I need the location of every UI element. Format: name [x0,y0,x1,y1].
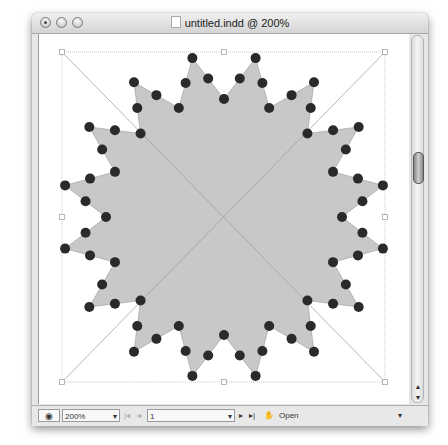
anchor-point[interactable] [264,321,274,331]
anchor-point[interactable] [132,103,142,113]
anchor-point[interactable] [219,330,229,340]
anchor-point[interactable] [251,371,261,381]
anchor-point[interactable] [354,122,364,132]
anchor-point[interactable] [60,180,70,190]
anchor-point[interactable] [136,295,146,305]
anchor-point[interactable] [187,53,197,63]
anchor-point[interactable] [110,299,120,309]
anchor-point[interactable] [264,103,274,113]
anchor-point[interactable] [84,302,94,312]
anchor-point[interactable] [151,90,161,100]
anchor-point[interactable] [306,103,316,113]
anchor-point[interactable] [257,346,267,356]
anchor-point[interactable] [353,174,363,184]
anchor-point[interactable] [306,321,316,331]
anchor-point[interactable] [328,167,338,177]
anchor-point[interactable] [151,334,161,344]
anchor-point[interactable] [84,122,94,132]
star-artwork[interactable] [0,0,448,445]
anchor-point[interactable] [341,144,351,154]
anchor-point[interactable] [287,90,297,100]
anchor-point[interactable] [60,244,70,254]
anchor-point[interactable] [136,129,146,139]
resize-handle[interactable] [383,50,388,55]
anchor-point[interactable] [378,244,388,254]
anchor-point[interactable] [181,78,191,88]
anchor-point[interactable] [235,350,245,360]
star-shape[interactable] [60,52,388,382]
anchor-point[interactable] [287,334,297,344]
resize-handle[interactable] [383,380,388,385]
resize-handle[interactable] [60,50,65,55]
anchor-point[interactable] [353,250,363,260]
anchor-point[interactable] [101,212,111,222]
anchor-point[interactable] [337,212,347,222]
anchor-point[interactable] [181,346,191,356]
anchor-point[interactable] [132,321,142,331]
anchor-point[interactable] [302,295,312,305]
anchor-point[interactable] [328,299,338,309]
anchor-point[interactable] [187,371,197,381]
anchor-point[interactable] [257,78,267,88]
anchor-point[interactable] [85,250,95,260]
resize-handle[interactable] [222,380,227,385]
anchor-point[interactable] [328,257,338,267]
anchor-point[interactable] [357,196,367,206]
anchor-point[interactable] [85,174,95,184]
anchor-point[interactable] [357,228,367,238]
anchor-point[interactable] [129,347,139,357]
anchor-point[interactable] [81,228,91,238]
anchor-point[interactable] [328,125,338,135]
anchor-point[interactable] [235,74,245,84]
anchor-point[interactable] [174,321,184,331]
anchor-point[interactable] [110,167,120,177]
anchor-point[interactable] [174,103,184,113]
anchor-point[interactable] [129,77,139,87]
anchor-point[interactable] [203,74,213,84]
anchor-point[interactable] [354,302,364,312]
anchor-point[interactable] [251,53,261,63]
resize-handle[interactable] [60,215,65,220]
anchor-point[interactable] [309,347,319,357]
anchor-point[interactable] [81,196,91,206]
resize-handle[interactable] [222,50,227,55]
anchor-point[interactable] [203,350,213,360]
anchor-point[interactable] [110,257,120,267]
anchor-point[interactable] [378,180,388,190]
anchor-point[interactable] [97,144,107,154]
anchor-point[interactable] [97,280,107,290]
anchor-point[interactable] [110,125,120,135]
anchor-point[interactable] [302,129,312,139]
anchor-point[interactable] [309,77,319,87]
resize-handle[interactable] [383,215,388,220]
anchor-point[interactable] [219,94,229,104]
resize-handle[interactable] [60,380,65,385]
anchor-point[interactable] [341,280,351,290]
